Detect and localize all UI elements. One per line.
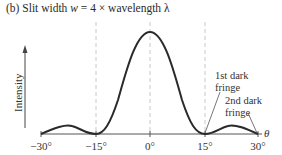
first-dark-fringe-label-2: fringe [215,82,240,93]
y-axis-label: Intensity [12,73,24,112]
arrow-head-icon [23,45,28,53]
x-tick-label: 0° [145,140,155,152]
first-dark-fringe-leader [205,92,220,133]
x-tick-label: 30° [250,140,265,152]
x-tick-label: 15° [197,140,212,152]
second-dark-fringe-label-2: fringe [225,107,250,118]
theta-symbol: θ [264,127,270,139]
x-tick-label: −30° [30,140,52,152]
intensity-plot: 1st dark fringe 2nd dark fringe Intensit… [0,0,282,155]
first-dark-fringe-label-1: 1st dark [215,70,249,81]
second-dark-fringe-label-1: 2nd dark [225,95,263,106]
x-tick-label: −15° [85,140,107,152]
